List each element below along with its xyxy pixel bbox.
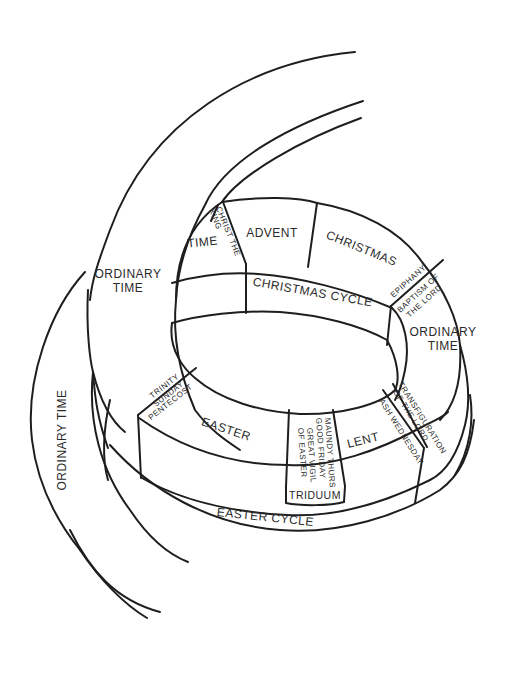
divider-pentecost-down: [138, 415, 141, 478]
ring-inner-top-lower: [172, 312, 387, 340]
divider-advent-christmas: [308, 203, 317, 267]
ring-inner-hole: [171, 323, 397, 414]
label-lent: LENT: [345, 429, 380, 451]
liturgical-year-diagram: ORDINARY TIME ORDINARY TIME TIME CHRIST …: [0, 0, 524, 700]
label-ordinary-time-top-2: TIME: [113, 281, 144, 295]
labels: ORDINARY TIME ORDINARY TIME TIME CHRIST …: [55, 205, 477, 529]
divider-triduum-left: [286, 410, 289, 487]
divider-baptism-down: [387, 306, 391, 345]
label-advent: ADVENT: [246, 226, 298, 240]
label-christmas-cycle: CHRISTMAS CYCLE: [252, 275, 374, 310]
label-ordinary-time-right-2: TIME: [428, 339, 459, 353]
spiral-tail-lines: [31, 52, 363, 618]
label-ordinary-time-right-1: ORDINARY: [409, 325, 476, 339]
label-time: TIME: [187, 233, 219, 250]
label-christmas: CHRISTMAS: [324, 228, 399, 269]
label-ordinary-time-outer: ORDINARY TIME: [55, 389, 69, 490]
label-ordinary-time-top-1: ORDINARY: [94, 267, 161, 281]
outer-ordinary-band-left-3: [70, 530, 160, 612]
outer-arc-top: [90, 52, 355, 300]
segment-dividers: [138, 202, 443, 505]
inner-arc-top-1: [176, 101, 363, 300]
label-easter-cycle: EASTER CYCLE: [216, 505, 314, 529]
outer-ordinary-band-left-2: [80, 550, 147, 618]
label-triduum: TRIDUUM: [289, 489, 341, 501]
